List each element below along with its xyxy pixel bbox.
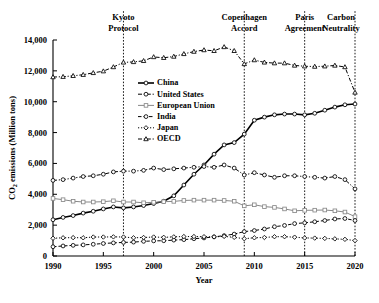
event-label-line2: Neutrality	[322, 23, 360, 33]
event-label-line1: Copenhagen	[222, 12, 268, 22]
data-point-marker	[273, 206, 277, 210]
x-tick-label: 1995	[95, 261, 112, 271]
data-point-marker	[222, 143, 226, 147]
data-point-marker	[303, 221, 307, 225]
data-point-marker	[343, 210, 347, 214]
y-tick-label: 0	[43, 251, 47, 261]
data-point-marker	[152, 201, 156, 205]
data-point-marker	[273, 175, 277, 179]
data-point-marker	[81, 211, 85, 215]
y-axis-title: CO2 emissions (Million tons)	[7, 96, 18, 200]
data-point-marker	[353, 102, 357, 106]
event-label-line2: Protocol	[108, 23, 139, 33]
data-point-marker	[202, 165, 206, 169]
data-point-marker	[132, 240, 136, 244]
data-point-marker	[353, 215, 357, 219]
data-point-marker	[242, 204, 246, 208]
data-point-marker	[71, 214, 75, 218]
data-point-marker	[192, 172, 196, 176]
data-point-marker	[122, 241, 126, 245]
y-tick-label: 4,000	[28, 189, 47, 199]
data-point-marker	[61, 198, 65, 202]
data-point-marker	[212, 165, 216, 169]
data-point-marker	[283, 112, 287, 116]
data-point-marker	[51, 218, 55, 222]
data-point-marker	[91, 200, 95, 204]
data-point-marker	[333, 175, 337, 179]
data-point-marker	[252, 171, 256, 175]
data-point-marker	[101, 172, 105, 176]
data-point-marker	[142, 168, 146, 172]
data-point-marker	[101, 207, 105, 211]
y-tick-label: 12,000	[24, 66, 47, 76]
data-point-marker	[293, 112, 297, 116]
data-point-marker	[192, 165, 196, 169]
data-point-marker	[112, 170, 116, 174]
data-point-marker	[263, 115, 267, 119]
event-label-line1: Paris	[295, 12, 315, 22]
y-tick-label: 6,000	[28, 158, 47, 168]
x-tick-label: 1990	[45, 261, 62, 271]
data-point-marker	[91, 174, 95, 178]
legend-label: United States	[157, 90, 204, 99]
data-point-marker	[182, 183, 186, 187]
legend-label: India	[157, 112, 176, 121]
data-point-marker	[333, 209, 337, 213]
data-point-marker	[212, 152, 216, 156]
data-point-marker	[252, 118, 256, 122]
data-point-marker	[283, 174, 287, 178]
x-tick-label: 2015	[296, 261, 313, 271]
chart-container: KyotoProtocolCopenhagenAccordParisAgreem…	[0, 0, 379, 303]
data-point-marker	[162, 168, 166, 172]
data-point-marker	[343, 178, 347, 182]
data-point-marker	[293, 222, 297, 226]
event-label-line2: Accord	[231, 23, 258, 33]
data-point-marker	[263, 227, 267, 231]
data-point-marker	[353, 219, 357, 223]
data-point-marker	[313, 208, 317, 212]
data-point-marker	[313, 111, 317, 115]
data-point-marker	[61, 178, 65, 182]
x-tick-label: 2000	[145, 261, 162, 271]
data-point-marker	[283, 224, 287, 228]
y-axis-title-text: CO2 emissions (Million tons)	[7, 96, 18, 200]
data-point-marker	[61, 244, 65, 248]
x-tick-label: 2020	[347, 261, 364, 271]
data-point-marker	[283, 207, 287, 211]
data-point-marker	[333, 217, 337, 221]
data-point-marker	[102, 200, 106, 204]
data-point-marker	[162, 200, 166, 204]
data-point-marker	[132, 200, 136, 204]
chart-background	[0, 0, 379, 303]
data-point-marker	[232, 166, 236, 170]
data-point-marker	[142, 201, 146, 205]
data-point-marker	[144, 92, 148, 96]
data-point-marker	[51, 245, 55, 249]
data-point-marker	[202, 198, 206, 202]
data-point-marker	[71, 176, 75, 180]
data-point-marker	[253, 203, 257, 207]
data-point-marker	[152, 166, 156, 170]
y-tick-label: 10,000	[24, 97, 47, 107]
data-point-marker	[242, 230, 246, 234]
data-point-marker	[323, 208, 327, 212]
data-point-marker	[132, 205, 136, 209]
legend-label: European Union	[157, 101, 215, 110]
data-point-marker	[222, 199, 226, 203]
data-point-marker	[323, 176, 327, 180]
data-point-marker	[172, 200, 176, 204]
data-point-marker	[71, 243, 75, 247]
y-tick-label: 8,000	[28, 128, 47, 138]
data-point-marker	[303, 113, 307, 117]
data-point-marker	[81, 200, 85, 204]
data-point-marker	[293, 209, 297, 213]
data-point-marker	[112, 199, 116, 203]
data-point-marker	[263, 173, 267, 177]
data-point-marker	[232, 141, 236, 145]
data-point-marker	[91, 209, 95, 213]
data-point-marker	[51, 179, 55, 183]
data-point-marker	[172, 194, 176, 198]
data-point-marker	[323, 219, 327, 223]
data-point-marker	[182, 199, 186, 203]
data-point-marker	[132, 169, 136, 173]
